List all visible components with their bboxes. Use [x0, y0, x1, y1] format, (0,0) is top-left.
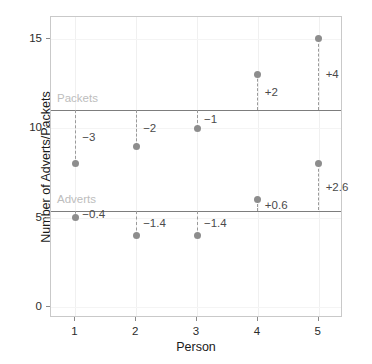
residual-label-adverts-person-3: −1.4 — [204, 217, 227, 229]
x-axis-title: Person — [50, 340, 342, 354]
x-tick-label-4: 4 — [242, 325, 272, 337]
x-tick-label-2: 2 — [120, 325, 150, 337]
x-tick-mark-4 — [257, 317, 258, 321]
data-point-packets-person-5[interactable] — [315, 35, 322, 42]
residual-label-packets-person-2: −2 — [143, 122, 156, 134]
x-tick-label-1: 1 — [59, 325, 89, 337]
x-tick-mark-3 — [196, 317, 197, 321]
x-tick-mark-2 — [135, 317, 136, 321]
x-tick-label-3: 3 — [181, 325, 211, 337]
residual-label-adverts-person-1: −0.4 — [82, 208, 105, 220]
x-tick-mark-1 — [74, 317, 75, 321]
data-point-packets-person-1[interactable] — [72, 160, 79, 167]
gridline-horizontal-15 — [51, 39, 341, 40]
residual-line-packets-person-5 — [318, 39, 319, 111]
x-tick-mark-5 — [318, 317, 319, 321]
residual-line-packets-person-4 — [257, 74, 258, 110]
residual-label-packets-person-3: −1 — [204, 113, 217, 125]
plot-panel: PacketsAdverts−3−2−1+2+4−0.4−1.4−1.4+0.6… — [50, 16, 342, 317]
chart-figure: Number of Adverts/Packets Person 051015 … — [0, 0, 372, 364]
residual-label-adverts-person-2: −1.4 — [143, 217, 166, 229]
y-tick-label-0: 0 — [12, 300, 42, 312]
residual-line-adverts-person-5 — [318, 164, 319, 211]
y-tick-label-5: 5 — [12, 211, 42, 223]
reference-label-adverts: Adverts — [57, 193, 96, 205]
gridline-vertical-3 — [197, 17, 198, 316]
residual-label-adverts-person-4: +0.6 — [265, 199, 288, 211]
residual-line-packets-person-1 — [75, 110, 76, 164]
reference-label-packets: Packets — [57, 92, 98, 104]
x-tick-label-5: 5 — [303, 325, 333, 337]
gridline-vertical-4 — [258, 17, 259, 316]
data-point-adverts-person-4[interactable] — [254, 196, 261, 203]
data-point-adverts-person-1[interactable] — [72, 214, 79, 221]
gridline-horizontal-0 — [51, 307, 341, 308]
data-point-packets-person-2[interactable] — [133, 143, 140, 150]
residual-label-packets-person-1: −3 — [82, 131, 95, 143]
data-point-adverts-person-2[interactable] — [133, 232, 140, 239]
residual-label-packets-person-5: +4 — [326, 68, 339, 80]
residual-line-packets-person-2 — [136, 110, 137, 146]
data-point-adverts-person-5[interactable] — [315, 160, 322, 167]
residual-label-packets-person-4: +2 — [265, 86, 278, 98]
data-point-packets-person-4[interactable] — [254, 71, 261, 78]
residual-label-adverts-person-5: +2.6 — [326, 181, 349, 193]
data-point-adverts-person-3[interactable] — [194, 232, 201, 239]
y-tick-label-10: 10 — [12, 121, 42, 133]
gridline-vertical-2 — [136, 17, 137, 316]
data-point-packets-person-3[interactable] — [194, 125, 201, 132]
y-tick-label-15: 15 — [12, 32, 42, 44]
